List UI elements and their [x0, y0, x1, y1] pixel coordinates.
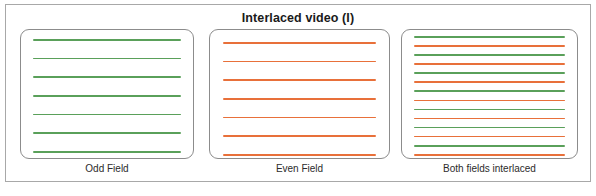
- scanline: [414, 54, 565, 56]
- scanline: [414, 154, 565, 156]
- scanline: [223, 154, 377, 156]
- scanline: [414, 145, 565, 147]
- scanline: [414, 109, 565, 111]
- scanline: [414, 118, 565, 120]
- scanline: [223, 61, 377, 63]
- scanline: [414, 100, 565, 102]
- panel-even-field: Even Field: [209, 29, 390, 177]
- panel-both-fields: Both fields interlaced: [401, 29, 578, 177]
- scanline: [33, 132, 181, 134]
- scanline: [223, 42, 377, 44]
- scanline: [223, 98, 377, 100]
- panel-even-field-caption: Even Field: [209, 162, 390, 175]
- panel-odd-field-caption: Odd Field: [20, 162, 194, 175]
- panel-row: Odd Field Even Field Both fields interla…: [6, 5, 590, 181]
- scanline: [414, 127, 565, 129]
- scanline: [414, 36, 565, 38]
- scanline: [33, 39, 181, 41]
- scanline: [414, 90, 565, 92]
- panel-both-fields-box: [401, 29, 578, 159]
- scanline: [414, 72, 565, 74]
- panel-even-field-box: [209, 29, 390, 159]
- scanline: [414, 81, 565, 83]
- scanline: [414, 136, 565, 138]
- panel-odd-field: Odd Field: [20, 29, 194, 177]
- scanline: [223, 79, 377, 81]
- scanline: [223, 135, 377, 137]
- scanline: [33, 151, 181, 153]
- scanline: [33, 114, 181, 116]
- panel-both-fields-caption: Both fields interlaced: [401, 162, 578, 175]
- scanline: [223, 117, 377, 119]
- scanline: [414, 45, 565, 47]
- scanline: [33, 95, 181, 97]
- scanline: [414, 63, 565, 65]
- panel-odd-field-box: [20, 29, 194, 159]
- scanline: [33, 76, 181, 78]
- figure-container: Interlaced video (I) Odd Field Even Fiel…: [5, 4, 591, 182]
- scanline: [33, 58, 181, 60]
